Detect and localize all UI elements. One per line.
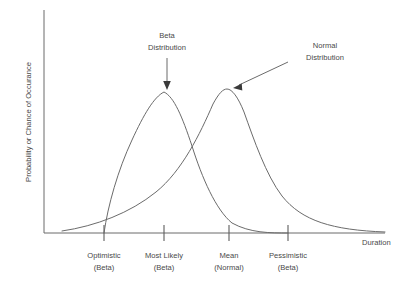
distribution-chart: Beta Distribution Normal Distribution Op…: [0, 0, 420, 295]
chart-container: Beta Distribution Normal Distribution Op…: [0, 0, 420, 295]
beta-callout-arrow-head: [163, 81, 171, 90]
tick-label-pessimistic-line1: Pessimistic: [269, 251, 307, 260]
tick-label-optimistic-line1: Optimistic: [87, 251, 121, 260]
normal-callout-arrow-head: [233, 84, 242, 91]
tick-label-pessimistic-line2: (Beta): [278, 263, 299, 272]
tick-label-most-likely-line1: Most Likely: [145, 251, 183, 260]
normal-callout-arrow-line: [239, 62, 288, 85]
tick-label-optimistic-line2: (Beta): [94, 263, 115, 272]
beta-annotation-line2: Distribution: [148, 43, 186, 52]
tick-label-mean-line1: Mean: [220, 251, 239, 260]
normal-annotation-line2: Distribution: [306, 53, 344, 62]
normal-distribution-curve: [62, 89, 385, 232]
y-axis-title: Probability or Chance of Occurance: [24, 62, 33, 182]
beta-distribution-curve: [104, 92, 288, 233]
x-axis-title: Duration: [362, 238, 391, 247]
normal-annotation-line1: Normal: [313, 41, 338, 50]
beta-annotation-line1: Beta: [159, 31, 175, 40]
tick-label-mean-line2: (Normal): [214, 263, 244, 272]
tick-label-most-likely-line2: (Beta): [154, 263, 175, 272]
